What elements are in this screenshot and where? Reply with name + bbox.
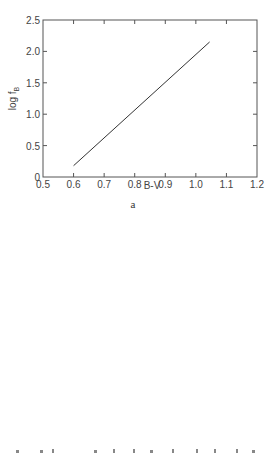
y-tick-label: 2.0 [26,46,40,57]
cropped-caption-fragments [16,449,255,453]
y-tick-label: 0.5 [26,141,40,152]
x-tick-label: 0.6 [67,179,81,190]
x-tick-label: 1.1 [219,179,233,190]
x-tick-label: 1.0 [189,179,203,190]
x-tick-label: 0.7 [97,179,111,190]
fit-line [74,42,210,166]
x-axis-label: B-V [144,180,161,191]
y-tick-label: 1.5 [26,78,40,89]
y-tick-label: 0 [34,172,40,183]
x-tick-label: 0.8 [128,179,142,190]
chart-panel-a: 0.50.60.70.80.91.01.11.200.51.01.52.02.5… [7,15,264,210]
x-tick-label: 1.2 [250,179,264,190]
x-tick-label: 0.9 [158,179,172,190]
figure: 0.50.60.70.80.91.01.11.200.51.01.52.02.5… [0,0,277,453]
y-tick-label: 1.0 [26,109,40,120]
plot-frame [43,20,257,177]
y-axis-label: log fB [7,86,20,110]
y-tick-label: 2.5 [26,15,40,26]
panel-label: a [131,198,136,210]
